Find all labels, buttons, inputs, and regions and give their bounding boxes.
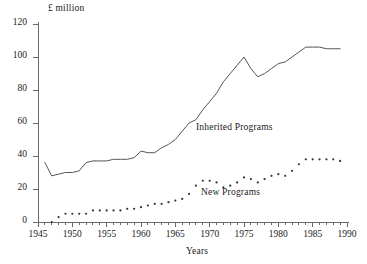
- x-axis-tick-label: 1965: [158, 229, 192, 239]
- y-axis-tick-label: 80: [1, 83, 27, 93]
- x-axis-tick-label: 1980: [261, 229, 295, 239]
- x-axis-tick-label: 1985: [296, 229, 330, 239]
- chart-container: £ million Years Inherited Programs New P…: [0, 0, 367, 264]
- chart-plot-area: [0, 0, 367, 264]
- y-axis-tick-label: 60: [1, 116, 27, 126]
- x-axis-tick-label: 1960: [124, 229, 158, 239]
- x-axis-tick-label: 1990: [330, 229, 364, 239]
- y-axis-tick-label: 20: [1, 182, 27, 192]
- y-axis-tick-label: 100: [1, 50, 27, 60]
- x-axis-tick-label: 1975: [227, 229, 261, 239]
- y-axis-tick-label: 0: [1, 215, 27, 225]
- series-label-inherited-programs: Inherited Programs: [196, 122, 273, 132]
- y-axis-title: £ million: [48, 3, 84, 13]
- x-axis-tick-label: 1945: [21, 229, 55, 239]
- x-axis-tick-label: 1970: [193, 229, 227, 239]
- x-axis-title: Years: [186, 246, 208, 256]
- y-axis-tick-label: 40: [1, 149, 27, 159]
- y-axis-tick-label: 120: [1, 17, 27, 27]
- x-axis-tick-label: 1950: [55, 229, 89, 239]
- x-axis-tick-label: 1955: [90, 229, 124, 239]
- series-label-new-programs: New Programs: [201, 187, 260, 197]
